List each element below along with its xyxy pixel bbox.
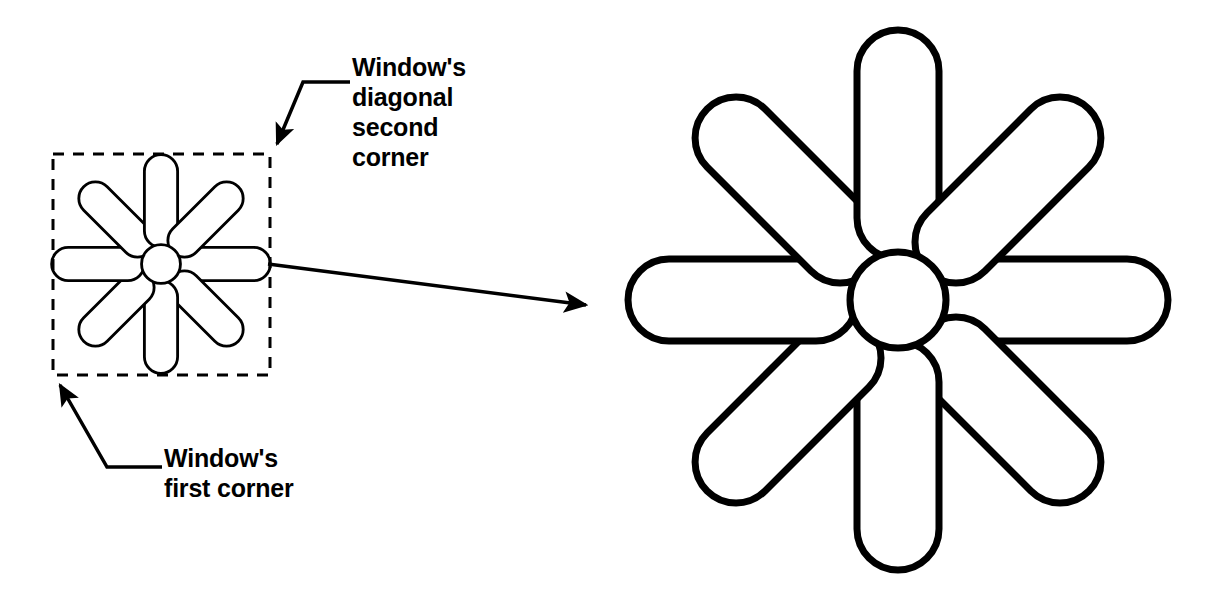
label-window-diagonal-second-corner: Window's diagonal second corner: [352, 52, 542, 172]
diagram-graphics: [0, 0, 1210, 611]
diagram-canvas: Window's diagonal second corner Window's…: [0, 0, 1210, 611]
zoom-arrow: [268, 264, 586, 305]
small-asterisk-figure: [52, 155, 271, 374]
label-window-first-corner: Window's first corner: [164, 443, 414, 503]
large-asterisk-figure: [628, 30, 1168, 570]
leader-line-first-corner: [60, 385, 162, 467]
leader-line-second-corner: [277, 82, 350, 144]
